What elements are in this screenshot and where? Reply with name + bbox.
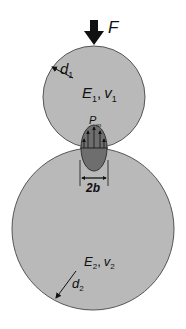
hertz-contact-diagram: F d1 E1,v1 Pm 2b E2,v2 d2: [0, 0, 186, 329]
force-label: F: [108, 18, 120, 37]
width-label: 2b: [85, 181, 100, 195]
down-arrow-icon: [84, 20, 104, 45]
sphere-2: [12, 148, 174, 310]
